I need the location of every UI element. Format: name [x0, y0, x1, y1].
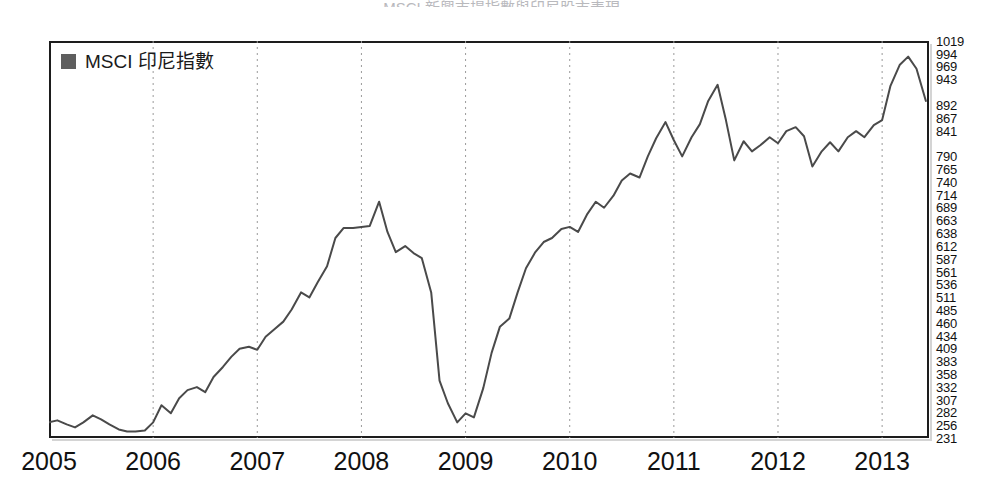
x-axis-tick-labels: 200520062007200820092010201120122013 [0, 446, 1003, 482]
x-tick-2006: 2006 [125, 446, 181, 476]
figure-title-clipped: MSCI 新興市場指數與印尼股市表現 [0, 0, 1003, 7]
y-tick-358: 358 [936, 368, 957, 381]
x-tick-2005: 2005 [21, 446, 77, 476]
y-tick-943: 943 [936, 73, 957, 86]
y-tick-231: 231 [936, 432, 957, 445]
y-tick-841: 841 [936, 125, 957, 138]
y-axis-tick-labels: 1019994969943892867841790765740714689663… [936, 41, 1000, 441]
legend-label-msci-indonesia: MSCI 印尼指數 [85, 51, 214, 72]
x-tick-2012: 2012 [750, 446, 806, 476]
line-chart-canvas [49, 41, 929, 438]
y-tick-638: 638 [936, 227, 957, 240]
x-tick-2007: 2007 [229, 446, 285, 476]
series-line-msci-indonesia [49, 57, 926, 432]
vertical-gridlines [153, 41, 882, 438]
plot-area: MSCI 印尼指數 [49, 41, 929, 438]
x-tick-2011: 2011 [647, 446, 701, 476]
x-tick-2010: 2010 [542, 446, 598, 476]
y-tick-409: 409 [936, 342, 957, 355]
x-tick-2013: 2013 [854, 446, 910, 476]
y-tick-587: 587 [936, 253, 957, 266]
chart-legend: MSCI 印尼指數 [61, 51, 214, 72]
y-tick-689: 689 [936, 201, 957, 214]
y-tick-282: 282 [936, 406, 957, 419]
y-tick-460: 460 [936, 317, 957, 330]
x-tick-2009: 2009 [438, 446, 494, 476]
y-tick-740: 740 [936, 176, 957, 189]
x-tick-2008: 2008 [334, 446, 390, 476]
y-tick-969: 969 [936, 60, 957, 73]
legend-swatch-icon [61, 54, 76, 69]
y-tick-765: 765 [936, 163, 957, 176]
chart-figure: MSCI 新興市場指數與印尼股市表現 MSCI 印尼指數 10199949699… [0, 0, 1003, 504]
y-tick-511: 511 [936, 291, 956, 304]
y-tick-867: 867 [936, 112, 957, 125]
